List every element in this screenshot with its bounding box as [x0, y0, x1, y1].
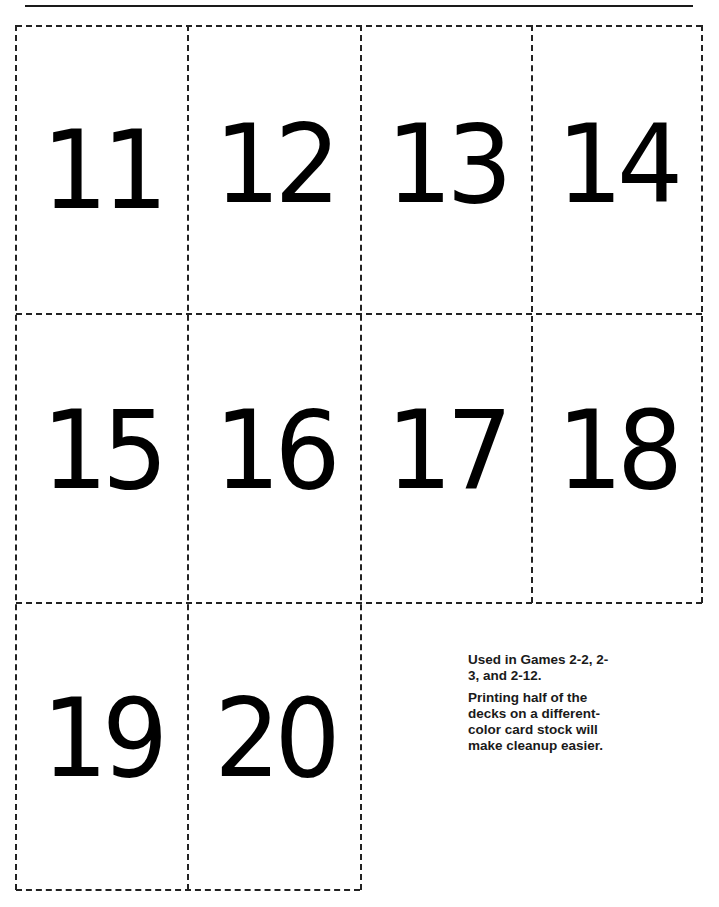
card-17: 17 [362, 395, 531, 504]
cut-line-col4 [701, 25, 703, 603]
card-20: 20 [189, 683, 360, 792]
usage-note-tip: Printing half of the decks on a differen… [468, 690, 618, 754]
card-15: 15 [17, 395, 187, 504]
cut-line-row2 [16, 602, 702, 604]
cut-line-row1 [16, 313, 702, 315]
card-19: 19 [17, 683, 187, 792]
card-14: 14 [533, 109, 701, 218]
usage-note: Used in Games 2-2, 2-3, and 2-12. Printi… [468, 652, 618, 760]
card-12: 12 [189, 109, 360, 218]
card-11: 11 [17, 115, 187, 224]
card-13: 13 [362, 109, 531, 218]
cut-line-top [16, 25, 702, 27]
top-rule [25, 5, 693, 7]
card-18: 18 [533, 395, 701, 504]
card-16: 16 [189, 395, 360, 504]
usage-note-games: Used in Games 2-2, 2-3, and 2-12. [468, 652, 618, 684]
